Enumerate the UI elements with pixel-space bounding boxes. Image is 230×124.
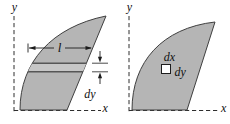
left-x-axis-label: x xyxy=(102,101,109,115)
right-region-shape xyxy=(132,22,215,110)
down-arrowhead-icon xyxy=(98,57,102,63)
strip-length-label: l xyxy=(58,40,62,55)
left-arrowhead-icon xyxy=(29,46,36,50)
left-y-axis-label: y xyxy=(11,0,18,14)
up-arrowhead-icon xyxy=(98,72,102,78)
figure-canvas: l dy y x dx dy y x xyxy=(0,0,230,124)
area-element-square xyxy=(162,65,171,74)
area-element-dx-label: dx xyxy=(164,50,176,64)
area-element-dy-label: dy xyxy=(175,65,187,79)
left-panel: l dy y x xyxy=(11,0,110,115)
right-x-axis-label: x xyxy=(220,101,227,115)
right-y-axis-label: y xyxy=(126,0,133,14)
strip-thickness-label: dy xyxy=(84,87,96,101)
right-panel: dx dy y x xyxy=(126,0,227,115)
strip-area-diagram: l dy y x dx dy y x xyxy=(0,0,230,124)
